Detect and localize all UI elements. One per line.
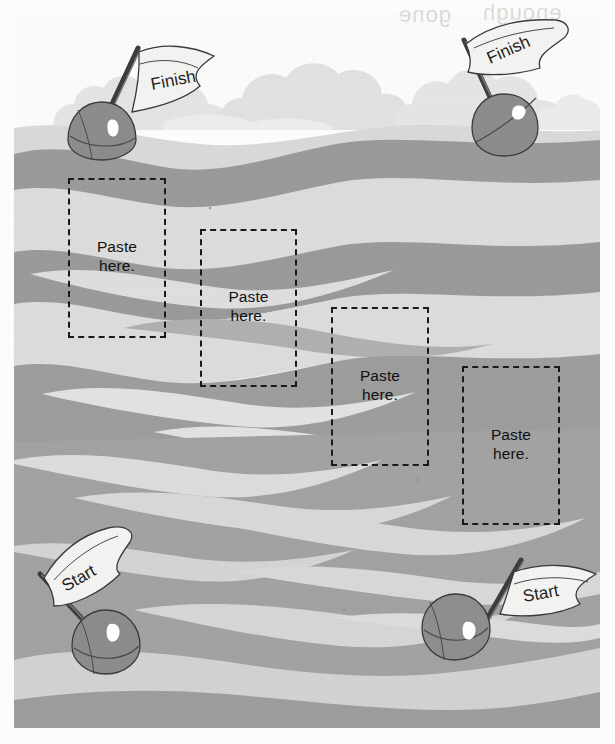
bleed-through-text-1: gone xyxy=(398,2,451,28)
buoy-start-left-body xyxy=(72,610,140,674)
scan-speck-3 xyxy=(343,609,345,611)
paste-box-1-label: Paste here. xyxy=(97,238,137,278)
bleed-through-text-2: enough xyxy=(482,0,561,26)
paste-box-3[interactable]: Paste here. xyxy=(331,307,429,466)
buoy-start-right-body xyxy=(422,594,490,660)
scan-speck-2 xyxy=(417,479,419,481)
paste-box-4[interactable]: Paste here. xyxy=(462,366,560,525)
buoy-finish-left-highlight xyxy=(107,120,118,137)
paste-box-2[interactable]: Paste here. xyxy=(200,229,297,387)
paste-box-3-label: Paste here. xyxy=(360,367,400,407)
paste-box-2-label: Paste here. xyxy=(228,288,268,328)
worksheet-page: Finish Finish xyxy=(0,0,615,744)
scan-speck-1 xyxy=(209,207,211,209)
buoy-finish-right-body xyxy=(472,94,538,156)
paste-box-4-label: Paste here. xyxy=(491,426,531,466)
illustration-plate: Finish Finish xyxy=(14,12,600,728)
paste-box-1[interactable]: Paste here. xyxy=(68,178,166,338)
